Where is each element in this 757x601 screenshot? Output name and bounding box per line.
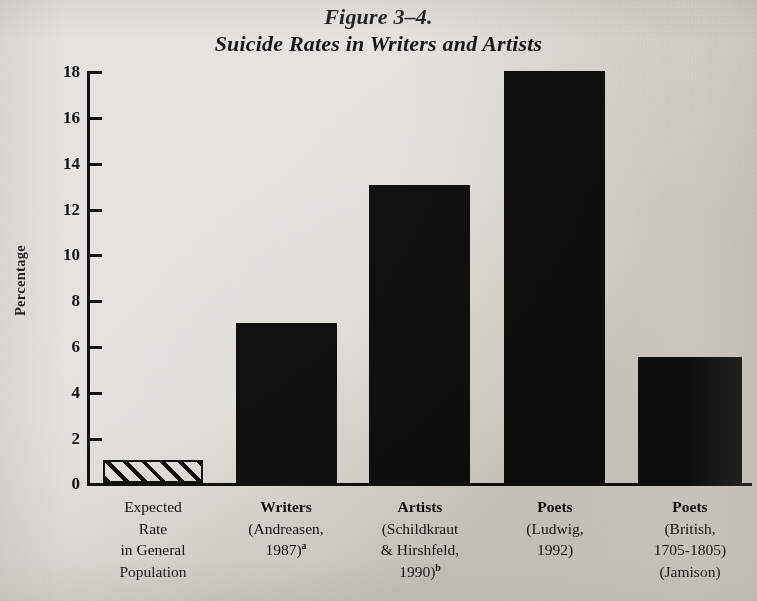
x-label-line: 1705-1805) [620,539,757,561]
y-axis-title-text: Percentage [13,244,30,315]
y-tick-label-14: 14 [44,155,80,172]
x-label-line: Rate [93,518,213,540]
x-label-line: & Hirshfeld, [344,539,496,561]
x-label-line: (British, [620,518,757,540]
y-axis-title: Percentage [10,190,32,370]
y-tick-14 [90,163,102,166]
y-tick-18 [90,71,102,74]
x-label-line: Population [93,561,213,583]
footnote-marker: b [435,561,441,572]
y-tick-6 [90,346,102,349]
y-axis-line [87,71,90,485]
x-label-line: Expected [93,496,213,518]
x-label-line: in General [93,539,213,561]
bar-writers[interactable] [236,323,337,483]
y-tick-label-8: 8 [44,292,80,309]
y-tick-12 [90,209,102,212]
x-label-line: (Andreasen, [216,518,356,540]
y-tick-4 [90,392,102,395]
x-label-line: (Schildkraut [344,518,496,540]
x-label-line: 1987)a [216,539,356,561]
y-tick-label-18: 18 [44,63,80,80]
y-tick-label-0: 0 [44,475,80,492]
x-label-line: 1990)b [344,561,496,583]
x-label-line: (Jamison) [620,561,757,583]
x-label-poets-british: Poets(British,1705-1805)(Jamison) [620,496,757,582]
x-label-line: 1992) [487,539,623,561]
y-tick-label-10: 10 [44,246,80,263]
footnote-marker: a [302,540,307,551]
x-label-artists: Artists(Schildkraut& Hirshfeld,1990)b [344,496,496,582]
bar-chart: Percentage 18 16 14 12 10 8 6 4 2 0 Expe… [0,0,757,601]
bar-poets-ludwig[interactable] [504,71,605,483]
x-label-expected-rate: ExpectedRatein GeneralPopulation [93,496,213,582]
x-label-poets-ludwig: Poets(Ludwig,1992) [487,496,623,561]
x-axis-line [87,483,752,486]
bar-expected-rate[interactable] [103,460,203,483]
y-tick-2 [90,438,102,441]
y-tick-8 [90,300,102,303]
x-label-line: (Ludwig, [487,518,623,540]
y-tick-label-6: 6 [44,338,80,355]
y-tick-label-4: 4 [44,384,80,401]
y-tick-label-2: 2 [44,430,80,447]
x-label-line: Writers [216,496,356,518]
bar-poets-british[interactable] [638,357,742,483]
y-tick-label-12: 12 [44,201,80,218]
y-tick-16 [90,117,102,120]
x-label-line: Poets [620,496,757,518]
y-tick-label-16: 16 [44,109,80,126]
y-tick-10 [90,254,102,257]
x-label-line: Poets [487,496,623,518]
bar-artists[interactable] [369,185,470,483]
x-label-writers: Writers(Andreasen,1987)a [216,496,356,561]
x-label-line: Artists [344,496,496,518]
